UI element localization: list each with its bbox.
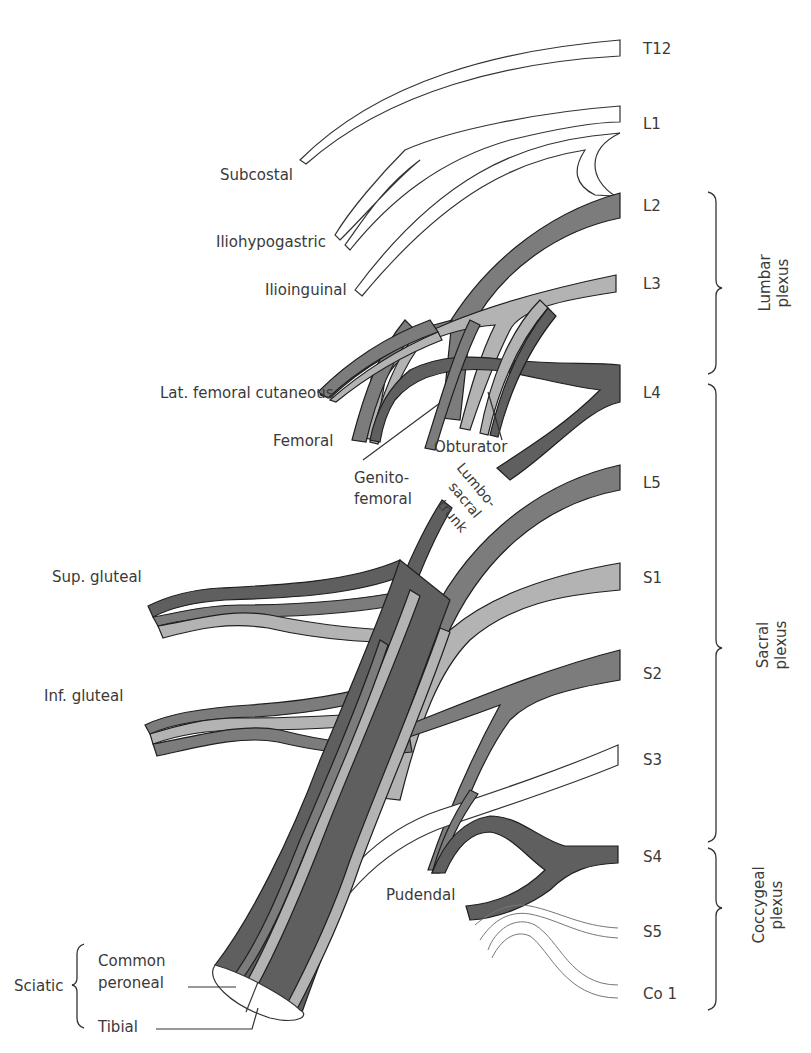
label-obturator: Obturator [434, 438, 508, 456]
root-label-s1: S1 [643, 569, 662, 587]
coccygeal-brace [708, 848, 722, 1010]
lumbar-brace [708, 192, 722, 374]
label-common-peroneal-2: peroneal [98, 974, 164, 992]
svg-text:plexus: plexus [772, 620, 790, 669]
root-label-l1: L1 [643, 115, 661, 133]
label-lumbosacral-trunk: Lumbo- sacral trunk [435, 460, 500, 536]
co1-nerve [488, 922, 618, 985]
label-ilioinguinal: Ilioinguinal [265, 281, 347, 299]
label-sciatic: Sciatic [14, 977, 63, 995]
svg-text:plexus: plexus [774, 258, 792, 307]
sacral-plexus-label: Sacral plexus [754, 620, 790, 669]
label-subcostal: Subcostal [220, 166, 293, 184]
s4-root [432, 816, 618, 920]
svg-text:Coccygeal: Coccygeal [750, 866, 768, 943]
lumbar-plexus-label: Lumbar plexus [756, 254, 792, 312]
label-lat-femoral-cutaneous: Lat. femoral cutaneous [160, 384, 334, 402]
root-label-s2: S2 [643, 665, 662, 683]
label-pudendal: Pudendal [386, 886, 455, 904]
svg-text:Lumbar: Lumbar [756, 254, 774, 312]
root-label-s5: S5 [643, 923, 662, 941]
svg-text:plexus: plexus [768, 880, 786, 929]
label-common-peroneal-1: Common [98, 952, 166, 970]
label-iliohypogastric: Iliohypogastric [216, 233, 326, 251]
lumbosacral-plexus-diagram: T12 L1 L2 L3 L4 L5 S1 S2 S3 S4 S5 Co 1 L… [0, 0, 811, 1053]
label-genitofemoral-1: Genito- [354, 469, 409, 487]
coccygeal-plexus-label: Coccygeal plexus [750, 866, 786, 943]
root-label-co1: Co 1 [643, 985, 677, 1003]
label-genitofemoral-2: femoral [354, 490, 412, 508]
root-label-s4: S4 [643, 848, 662, 866]
root-label-l4: L4 [643, 384, 661, 402]
root-label-l2: L2 [643, 197, 661, 215]
label-femoral: Femoral [273, 432, 333, 450]
root-label-s3: S3 [643, 751, 662, 769]
svg-text:Sacral: Sacral [754, 622, 772, 669]
co1-nerve-2 [492, 934, 618, 998]
root-label-l3: L3 [643, 275, 661, 293]
tibial-pointer [156, 1008, 258, 1029]
label-inf-gluteal: Inf. gluteal [44, 687, 123, 705]
sacral-brace [708, 384, 722, 842]
sciatic-brace [72, 944, 84, 1028]
root-label-l5: L5 [643, 474, 661, 492]
label-tibial: Tibial [97, 1018, 138, 1036]
label-sup-gluteal: Sup. gluteal [52, 568, 142, 586]
root-label-t12: T12 [642, 40, 671, 58]
s5-nerve-2 [480, 913, 618, 940]
